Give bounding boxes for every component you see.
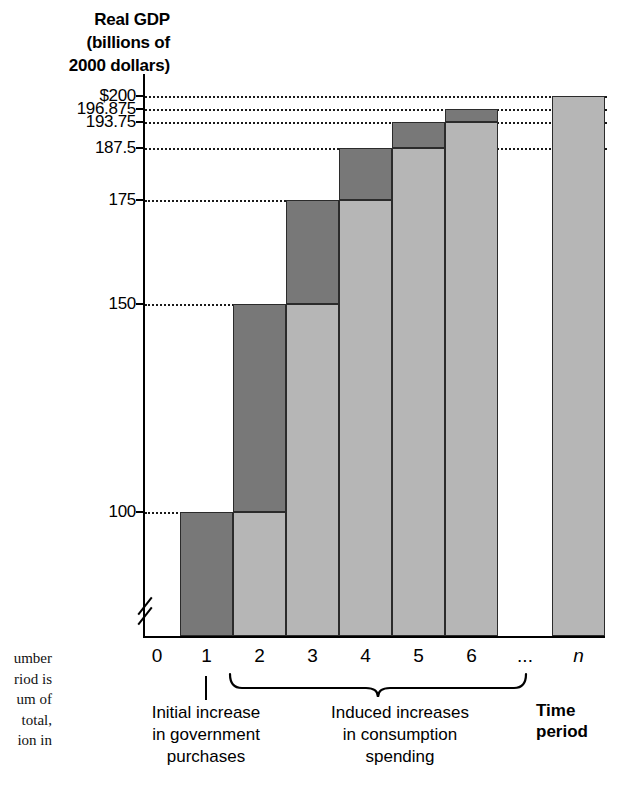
bar-period-n [552,96,605,636]
initial-caption-line-2: in government [118,724,294,746]
y-tick-mark [136,199,145,201]
x-tick-label: 1 [177,645,237,667]
x-axis-line [143,636,605,638]
x-tick-label: 2 [230,645,290,667]
page-margin-caption-line: umber [0,648,52,669]
induced-caption-line-2: in consumption [300,724,500,746]
bar-segment-base [552,96,605,636]
bar-segment-increment [286,200,339,304]
y-axis-line [143,74,145,637]
x-tick-label: 5 [389,645,449,667]
page-margin-caption-line: ion in [0,730,52,751]
page-margin-caption-line: riod is [0,669,52,690]
gridline [145,96,607,98]
bar-segment-increment [339,148,392,200]
x-axis-title-line-2: period [536,721,620,742]
bar-period-1 [180,512,233,636]
bar-segment-increment [445,109,498,122]
multiplier-effect-figure: Real GDP (billions of 2000 dollars) $200… [0,0,625,794]
initial-increase-caption: Initial increase in government purchases [118,702,294,768]
bar-period-3 [286,200,339,636]
y-tick-mark [136,95,145,97]
initial-increase-stem [205,676,207,700]
y-tick-mark [136,303,145,305]
y-axis-break-icon [134,596,156,626]
induced-caption-line-1: Induced increases [300,702,500,724]
x-axis-title-line-1: Time [536,700,620,721]
bar-period-6 [445,109,498,636]
y-tick-label: 150 [24,295,136,312]
x-tick-label: ... [495,645,555,667]
y-tick-label: 187.5 [24,139,136,156]
bar-segment-increment [180,512,233,636]
y-tick-label: 175 [24,191,136,208]
y-tick-mark [136,108,145,110]
y-tick-mark [136,147,145,149]
gridline [145,122,607,124]
gridline [145,109,607,111]
bar-segment-increment [392,122,445,148]
x-tick-label: 3 [283,645,343,667]
bar-period-4 [339,148,392,636]
y-tick-mark [136,511,145,513]
x-tick-label: 6 [442,645,502,667]
bar-segment-base [445,122,498,636]
x-tick-label: n [549,645,609,667]
induced-increases-brace-icon [228,672,528,698]
bar-segment-base [392,148,445,636]
page-margin-caption: umberriod isum oftotal,ion in [0,648,52,751]
y-tick-label: 193.75 [24,113,136,130]
bar-segment-base [339,200,392,636]
page-margin-caption-line: um of [0,689,52,710]
bar-segment-increment [233,304,286,512]
y-tick-label: 100 [24,503,136,520]
x-axis-title: Time period [536,700,620,742]
x-tick-label: 4 [336,645,396,667]
induced-increases-caption: Induced increases in consumption spendin… [300,702,500,768]
bar-period-5 [392,122,445,636]
y-tick-mark [136,121,145,123]
bar-period-2 [233,304,286,636]
bar-segment-base [286,304,339,636]
initial-caption-line-3: purchases [118,746,294,768]
page-margin-caption-line: total, [0,710,52,731]
induced-caption-line-3: spending [300,746,500,768]
bar-segment-base [233,512,286,636]
initial-caption-line-1: Initial increase [118,702,294,724]
